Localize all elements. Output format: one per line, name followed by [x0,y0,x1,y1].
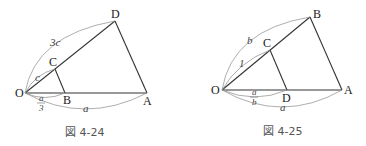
point-label-B: B [63,93,71,107]
point-label-A: A [344,83,353,97]
fraction-numerator-a: a [252,87,257,97]
segment-DA [115,21,147,93]
point-label-B: B [313,7,321,21]
fraction-denominator-b: b [252,97,257,107]
arc-OB [25,93,65,98]
figure-caption: 図 4-25 [263,125,302,138]
length-label-c: c [35,71,40,83]
segment-CB [55,69,65,93]
point-label-O: O [211,83,220,97]
length-label-b: b [247,34,253,46]
figure-caption: 図 4-24 [65,126,104,139]
point-label-C: C [263,36,271,50]
length-label-a: a [83,102,89,114]
segment-OB [222,17,310,90]
point-label-C: C [49,55,57,69]
figure-4-25: O D A C B b 1 a b a 図 4-25 [211,7,353,138]
segment-CD [270,50,287,90]
point-label-D: D [111,7,120,21]
length-label-1: 1 [239,57,245,69]
fraction-denominator-3: 3 [38,103,44,113]
length-label-a: a [280,101,286,113]
point-label-O: O [15,86,24,100]
figure-4-24: O B A C D 3c c a 3 a 図 4-24 [15,7,152,139]
point-label-A: A [143,94,152,108]
segment-BA [310,17,342,90]
length-label-3c: 3c [49,36,61,48]
fraction-numerator-a: a [39,93,44,103]
diagram-canvas: O B A C D 3c c a 3 a 図 4-24 O D A C B b … [0,0,366,146]
